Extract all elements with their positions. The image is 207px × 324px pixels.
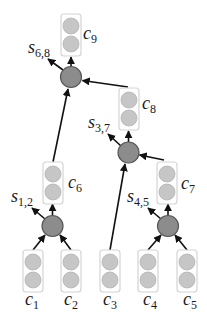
edge-merge-37-to-s37 — [108, 134, 121, 146]
vector-unit-icon — [45, 166, 61, 182]
edge-c4-to-merge-45 — [148, 235, 161, 250]
edge-c6-to-merge-68 — [53, 89, 68, 162]
vector-c3 — [100, 250, 120, 292]
vector-unit-icon — [102, 254, 118, 270]
vector-c8 — [119, 88, 139, 130]
label-s45: s4,5 — [127, 186, 149, 209]
vector-c7 — [157, 162, 177, 204]
vector-unit-icon — [25, 272, 41, 288]
label-c9: c9 — [83, 23, 97, 46]
edge-c3-to-merge-37 — [110, 164, 125, 250]
label-c6: c6 — [68, 172, 82, 195]
vector-unit-icon — [140, 272, 156, 288]
vector-c6 — [43, 162, 63, 204]
edge-merge-12-to-s12 — [32, 208, 45, 219]
vector-c4 — [138, 250, 158, 292]
merge-node-45 — [158, 216, 179, 237]
vector-unit-icon — [179, 272, 195, 288]
edge-merge-68-to-s68 — [48, 59, 63, 70]
edge-c8-to-merge-68 — [83, 81, 129, 88]
vector-c9 — [61, 14, 81, 56]
vector-unit-icon — [140, 254, 156, 270]
label-c7: c7 — [181, 173, 195, 196]
vector-unit-icon — [121, 110, 137, 126]
vector-c5 — [177, 250, 197, 292]
vector-unit-icon — [63, 36, 79, 52]
vector-unit-icon — [45, 184, 61, 200]
label-s37: s3,7 — [88, 112, 110, 135]
edge-c1-to-merge-12 — [33, 235, 45, 250]
vector-unit-icon — [159, 184, 175, 200]
label-s12: s1,2 — [11, 186, 33, 209]
vector-c1 — [23, 250, 43, 292]
merge-node-37 — [118, 142, 139, 163]
merge-node-68 — [61, 67, 82, 88]
vector-unit-icon — [63, 18, 79, 34]
vector-unit-icon — [179, 254, 195, 270]
edge-c5-to-merge-45 — [175, 235, 187, 250]
vector-unit-icon — [63, 254, 79, 270]
edge-merge-45-to-s45 — [148, 208, 161, 219]
edge-c2-to-merge-12 — [60, 235, 71, 250]
label-s68: s6,8 — [28, 37, 50, 60]
vector-c2 — [61, 250, 81, 292]
vector-unit-icon — [121, 92, 137, 108]
recursive-composition-tree: c1 c2 c3 c4 c5 c6 c7 c8 c9 s1,2 s4,5 s3,… — [0, 0, 207, 324]
vector-unit-icon — [159, 166, 175, 182]
edge-c7-to-merge-37 — [140, 155, 165, 160]
vector-unit-icon — [25, 254, 41, 270]
vector-unit-icon — [63, 272, 79, 288]
label-c8: c8 — [142, 93, 156, 116]
merge-node-12 — [42, 216, 63, 237]
vector-unit-icon — [102, 272, 118, 288]
